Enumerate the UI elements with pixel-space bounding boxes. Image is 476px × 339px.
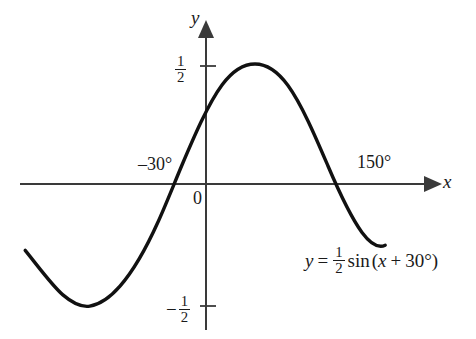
fraction-numerator: 1	[333, 245, 344, 260]
x-tick-label-minus-30-degrees: –30°	[138, 155, 172, 173]
equation-lhs: y	[305, 251, 313, 270]
fraction-one-half: 1 2	[179, 294, 190, 325]
equation-argument-variable: x	[378, 251, 386, 270]
y-tick-label-negative-one-half: − 1 2	[166, 294, 191, 325]
x-tick-label-150-degrees: 150°	[357, 153, 391, 171]
x-axis-label: x	[443, 172, 451, 191]
fraction-numerator: 1	[179, 294, 190, 309]
equation-argument-operator: +	[391, 251, 402, 270]
y-tick-label-one-half: 1 2	[174, 54, 187, 85]
minus-sign: −	[166, 300, 177, 319]
fraction-numerator: 1	[175, 54, 186, 69]
sine-graph-figure: y x 0 –30° 150° 1 2 − 1 2 y = 1 2 sin ( …	[0, 0, 476, 339]
y-axis-label: y	[191, 8, 199, 27]
equation-coefficient-one-half: 1 2	[333, 245, 344, 276]
fraction-one-half: 1 2	[175, 54, 186, 85]
equation-equals: =	[317, 251, 328, 270]
fraction-denominator: 2	[175, 69, 186, 85]
origin-label: 0	[193, 189, 202, 207]
equation-argument-value: 30°	[405, 251, 432, 270]
curve-equation-label: y = 1 2 sin ( x + 30° )	[305, 245, 438, 276]
fraction-denominator: 2	[179, 309, 190, 325]
equation-paren-close: )	[432, 251, 438, 270]
equation-function-name: sin	[348, 251, 370, 270]
plot-canvas	[0, 0, 476, 339]
fraction-denominator: 2	[333, 260, 344, 276]
